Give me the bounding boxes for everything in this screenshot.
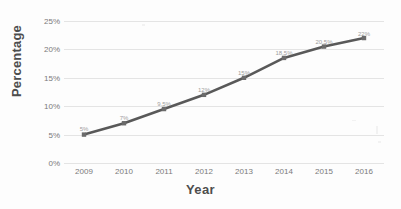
point-label-2014: 18.5% xyxy=(275,50,292,56)
x-tick-label-2012: 2012 xyxy=(184,167,224,176)
point-label-2016: 22% xyxy=(358,31,370,37)
point-label-2009: 5% xyxy=(80,126,89,132)
x-tick-label-2009: 2009 xyxy=(64,167,104,176)
y-tick-label-5: 5% xyxy=(30,130,60,139)
point-label-2012: 12% xyxy=(198,87,210,93)
data-point-marker xyxy=(282,56,286,60)
data-point-marker xyxy=(82,132,86,136)
x-tick-label-2016: 2016 xyxy=(344,167,384,176)
y-tick-label-0: 0% xyxy=(30,159,60,168)
point-label-2013: 15% xyxy=(238,70,250,76)
data-point-marker xyxy=(242,76,246,80)
data-point-marker xyxy=(122,121,126,125)
x-axis-title: Year xyxy=(0,182,401,197)
data-point-marker xyxy=(322,44,326,48)
series-line-percentage xyxy=(64,21,384,163)
x-tick-label-2011: 2011 xyxy=(144,167,184,176)
point-label-2010: 7% xyxy=(120,115,129,121)
point-label-2011: 9.5% xyxy=(157,101,171,107)
x-tick-label-2015: 2015 xyxy=(304,167,344,176)
data-point-marker xyxy=(162,107,166,111)
y-tick-label-10: 10% xyxy=(30,102,60,111)
x-tick-label-2010: 2010 xyxy=(104,167,144,176)
line-chart-figure: Percentage Year 25% 20% 15% 10% 5% 0% 20… xyxy=(0,0,401,209)
x-tick-label-2013: 2013 xyxy=(224,167,264,176)
y-tick-label-25: 25% xyxy=(30,17,60,26)
y-tick-label-20: 20% xyxy=(30,45,60,54)
gridline-0 xyxy=(64,163,384,164)
y-tick-label-15: 15% xyxy=(30,73,60,82)
data-point-marker xyxy=(202,93,206,97)
x-tick-label-2014: 2014 xyxy=(264,167,304,176)
plot-area: 5% 7% 9.5% 12% 15% 18.5% 20.5% 22% xyxy=(64,21,384,163)
y-axis-title: Percentage xyxy=(7,6,27,116)
point-label-2015: 20.5% xyxy=(315,39,332,45)
